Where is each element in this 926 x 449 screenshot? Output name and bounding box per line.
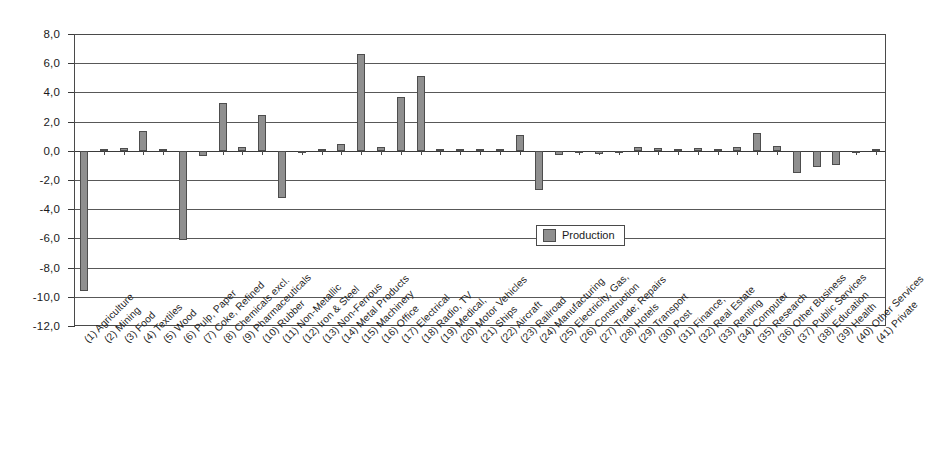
x-tick-mark	[757, 151, 758, 155]
bar	[199, 151, 207, 156]
bar	[397, 97, 405, 151]
bar	[298, 151, 306, 153]
bar	[337, 144, 345, 151]
bar	[377, 147, 385, 151]
x-tick-mark	[242, 151, 243, 155]
y-tick-label: 0,0	[43, 145, 60, 157]
x-tick-mark	[678, 151, 679, 155]
bar	[159, 149, 167, 151]
bars-layer	[74, 34, 886, 326]
bar	[793, 151, 801, 174]
x-tick-mark	[638, 151, 639, 155]
y-axis: 8,06,04,02,00,0-2,0-4,0-6,0-8,0-10,0-12,…	[0, 34, 70, 326]
bar	[278, 151, 286, 198]
bar	[100, 149, 108, 151]
bar	[496, 149, 504, 151]
x-tick-mark	[322, 151, 323, 155]
bar	[80, 151, 88, 291]
x-tick-mark	[500, 151, 501, 155]
x-tick-mark	[698, 151, 699, 155]
y-tick-label: -10,0	[33, 291, 60, 303]
bar	[615, 151, 623, 153]
bar	[417, 76, 425, 150]
x-tick-mark	[421, 151, 422, 155]
bar	[516, 135, 524, 151]
bar	[219, 103, 227, 150]
x-tick-mark	[341, 151, 342, 155]
bar	[476, 149, 484, 151]
bar	[238, 147, 246, 151]
x-tick-mark	[361, 151, 362, 155]
bar	[694, 148, 702, 151]
bar	[179, 151, 187, 240]
x-tick-mark	[143, 151, 144, 155]
bar	[258, 115, 266, 151]
x-tick-mark	[223, 151, 224, 155]
bar	[436, 149, 444, 151]
bar	[832, 151, 840, 165]
x-tick-mark	[163, 151, 164, 155]
x-tick-mark	[401, 151, 402, 155]
y-tick-mark	[68, 326, 75, 327]
legend-swatch-production	[543, 229, 556, 242]
bar	[714, 149, 722, 151]
bar	[357, 54, 365, 150]
bar	[595, 151, 603, 155]
bar	[456, 149, 464, 151]
bar	[674, 149, 682, 151]
y-tick-label: 8,0	[43, 28, 60, 40]
chart-legend: Production	[536, 225, 625, 246]
y-tick-label: 4,0	[43, 86, 60, 98]
bar	[634, 147, 642, 151]
bar	[733, 147, 741, 151]
x-tick-mark	[381, 151, 382, 155]
y-tick-label: 6,0	[43, 57, 60, 69]
bar	[555, 151, 563, 155]
x-tick-mark	[104, 151, 105, 155]
bar	[318, 149, 326, 151]
x-tick-mark	[440, 151, 441, 155]
y-tick-label: -12,0	[33, 320, 60, 332]
x-tick-mark	[124, 151, 125, 155]
y-tick-label: -2,0	[39, 174, 60, 186]
x-tick-mark	[262, 151, 263, 155]
x-tick-mark	[737, 151, 738, 155]
y-tick-label: -4,0	[39, 203, 60, 215]
bar	[120, 148, 128, 151]
x-tick-mark	[718, 151, 719, 155]
y-tick-label: 2,0	[43, 116, 60, 128]
y-tick-label: -6,0	[39, 232, 60, 244]
x-tick-mark	[460, 151, 461, 155]
bar	[753, 133, 761, 151]
y-tick-label: -8,0	[39, 262, 60, 274]
x-tick-mark	[658, 151, 659, 155]
legend-label-production: Production	[562, 230, 615, 241]
bar	[872, 149, 880, 151]
x-tick-mark	[480, 151, 481, 155]
bar	[535, 151, 543, 190]
x-tick-mark	[876, 151, 877, 155]
bar	[852, 151, 860, 153]
bar	[654, 148, 662, 151]
bar	[773, 146, 781, 150]
bar	[139, 131, 147, 151]
x-tick-mark	[520, 151, 521, 155]
bar	[575, 151, 583, 154]
x-tick-mark	[777, 151, 778, 155]
bar	[813, 151, 821, 167]
